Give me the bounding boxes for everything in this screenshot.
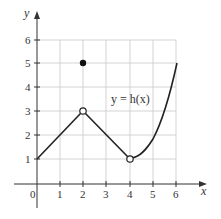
x-axis — [14, 181, 202, 187]
function-label: y = h(x) — [111, 92, 150, 106]
open-point-2-3 — [80, 108, 86, 114]
x-tick-5: 5 — [150, 188, 156, 200]
y-tick-3: 3 — [25, 105, 31, 117]
y-axis-label: y — [23, 6, 30, 20]
x-tick-1: 1 — [57, 188, 63, 200]
origin-label: 0 — [30, 188, 36, 200]
y-axis — [34, 18, 40, 208]
x-tick-6: 6 — [173, 188, 179, 200]
y-tick-5: 5 — [25, 57, 31, 69]
y-tick-6: 6 — [25, 34, 31, 46]
grid — [37, 40, 176, 184]
closed-point-2-5 — [80, 60, 86, 66]
x-tick-3: 3 — [103, 188, 109, 200]
y-tick-2: 2 — [25, 129, 31, 141]
y-axis-arrow-icon — [34, 11, 40, 19]
y-tick-4: 4 — [25, 81, 31, 93]
x-axis-label: x — [200, 184, 207, 198]
x-tick-2: 2 — [80, 188, 86, 200]
function-graph: 0 1 2 3 4 5 6 1 2 3 4 5 6 x y y = h(x) — [0, 0, 221, 219]
y-tick-1: 1 — [25, 153, 31, 165]
open-point-4-1 — [127, 156, 133, 162]
x-tick-4: 4 — [127, 188, 133, 200]
